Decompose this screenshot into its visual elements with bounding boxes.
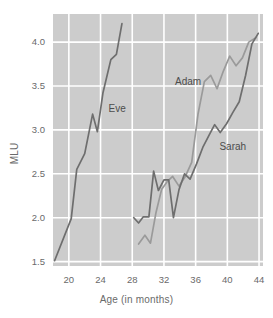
series-label-eve: Eve: [108, 103, 125, 114]
series-label-sarah: Sarah: [219, 141, 246, 152]
x-tick-label: 28: [120, 274, 144, 285]
x-axis-title: Age (in months): [0, 294, 273, 305]
x-tick-label: 44: [247, 274, 271, 285]
x-tick-label: 20: [57, 274, 81, 285]
y-tick-label: 1.5: [9, 256, 45, 267]
y-tick-label: 2.0: [9, 212, 45, 223]
y-tick-label: 4.0: [9, 36, 45, 47]
x-tick-label: 32: [152, 274, 176, 285]
chart-plot-area: [0, 0, 273, 318]
chart-figure: 1.52.02.53.03.54.0 20242832364044 EveAda…: [0, 0, 273, 318]
x-tick-label: 24: [89, 274, 113, 285]
x-tick-label: 36: [184, 274, 208, 285]
y-axis-title: MLU: [9, 129, 20, 179]
y-tick-label: 3.5: [9, 80, 45, 91]
series-label-adam: Adam: [175, 76, 201, 87]
plot-background: [53, 14, 263, 266]
x-tick-label: 40: [215, 274, 239, 285]
